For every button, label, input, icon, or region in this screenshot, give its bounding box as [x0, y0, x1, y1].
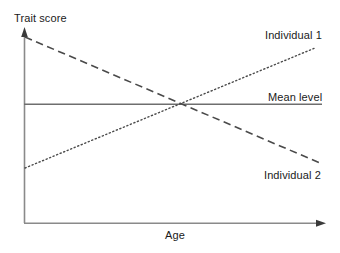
series-label-individual-1: Individual 1 — [265, 29, 322, 41]
series-label-mean-level: Mean level — [268, 91, 322, 103]
x-axis — [24, 220, 326, 227]
chart-figure: Trait score Individual 1 Mean level Indi… — [0, 0, 340, 253]
y-axis — [21, 27, 28, 223]
figure-caption-remnant — [0, 242, 340, 253]
x-axis-label: Age — [24, 229, 326, 241]
y-axis-arrow-icon — [21, 27, 28, 37]
series-label-individual-2: Individual 2 — [264, 169, 321, 181]
series-line-individual-1 — [25, 48, 315, 168]
y-axis-label: Trait score — [14, 12, 67, 24]
x-axis-arrow-icon — [316, 220, 326, 227]
